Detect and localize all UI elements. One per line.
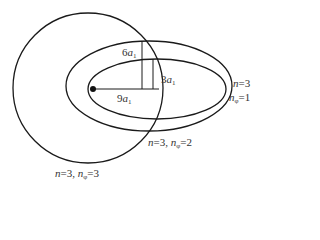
subscript-1: 1 — [172, 79, 176, 87]
orbit-ellipse-nphi2 — [66, 41, 232, 131]
subscript-1: 1 — [128, 98, 132, 106]
label-3a1: 3a1 — [161, 74, 176, 87]
comma: , — [72, 167, 75, 179]
label-9a1: 9a1 — [117, 93, 132, 106]
label-orbit-nphi3: n=3, nφ=3 — [55, 168, 99, 181]
value-nphi: 1 — [245, 91, 251, 103]
label-orbit-nphi2: n=3, nφ=2 — [148, 137, 192, 150]
value-n: 3 — [245, 77, 251, 89]
value-nphi: 3 — [93, 167, 99, 179]
subscript-1: 1 — [133, 52, 137, 60]
comma: , — [165, 136, 168, 148]
label-orbit-nphi1-line1: n=3 — [233, 78, 250, 89]
value-nphi: 2 — [186, 136, 192, 148]
nucleus-dot — [90, 86, 96, 92]
label-orbit-nphi1-line2: nφ=1 — [229, 92, 250, 105]
label-6a1: 6a1 — [122, 47, 137, 60]
